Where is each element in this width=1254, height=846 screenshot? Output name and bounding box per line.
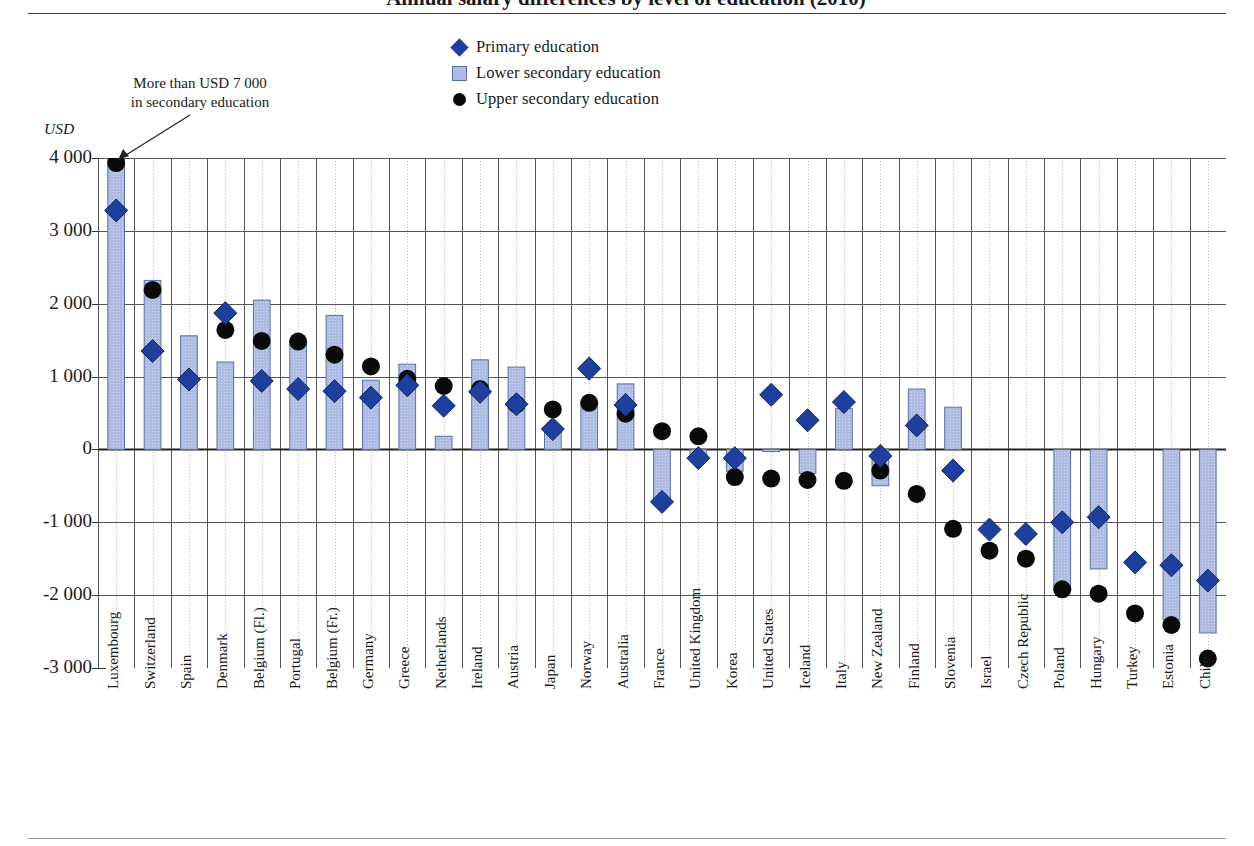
x-tick-label: Netherlands — [433, 617, 450, 689]
x-tick-label: France — [651, 648, 668, 689]
chart-legend: Primary education Lower secondary educat… — [448, 34, 661, 112]
y-tick-label: 1 000 — [49, 365, 92, 387]
marker-upper-secondary — [1017, 550, 1035, 568]
y-axis-ticks: 4 0003 0002 0001 0000-1 000-2 000-3 000 — [0, 158, 92, 678]
marker-upper-secondary — [144, 281, 162, 299]
bar-group — [144, 280, 161, 449]
marker-upper-secondary — [1053, 580, 1071, 598]
marker-upper-secondary — [1126, 604, 1144, 622]
x-tick-label: Israel — [978, 656, 995, 689]
bar-group — [217, 362, 234, 449]
plot-area — [98, 158, 1226, 668]
chart-title-clip: Annual salary differences by level of ed… — [28, 0, 1224, 14]
marker-primary — [796, 409, 819, 432]
marker-upper-secondary — [580, 394, 598, 412]
page-title: Annual salary differences by level of ed… — [28, 0, 1224, 11]
bar-group — [836, 409, 853, 450]
bar-lower-secondary — [799, 449, 816, 473]
x-tick-label: Norway — [578, 641, 595, 689]
bottom-divider — [28, 838, 1226, 839]
bar-lower-secondary — [836, 409, 853, 450]
legend-label-lower-secondary: Lower secondary education — [476, 63, 661, 83]
x-tick-label: Czech Republic — [1015, 594, 1032, 689]
marker-primary — [1014, 522, 1037, 545]
marker-upper-secondary — [435, 377, 453, 395]
x-tick-label: Portugal — [287, 638, 304, 689]
bar-lower-secondary — [945, 407, 962, 449]
marker-upper-secondary — [362, 357, 380, 375]
bar-lower-secondary — [181, 336, 198, 450]
marker-primary — [432, 394, 455, 417]
x-tick-label: United Kingdom — [687, 588, 704, 689]
marker-upper-secondary — [1162, 616, 1180, 634]
x-tick-label: Slovenia — [942, 637, 959, 690]
x-tick-label: Japan — [542, 655, 559, 689]
marker-upper-secondary — [799, 471, 817, 489]
marker-primary — [942, 459, 965, 482]
x-tick-label: Ireland — [469, 647, 486, 689]
marker-upper-secondary — [908, 485, 926, 503]
marker-upper-secondary — [726, 468, 744, 486]
circle-icon — [448, 93, 470, 106]
y-tick-label: -1 000 — [43, 510, 92, 532]
y-tick-label: 0 — [83, 437, 93, 459]
bar-lower-secondary — [435, 436, 452, 449]
bar-lower-secondary — [144, 280, 161, 449]
bar-group — [181, 336, 198, 450]
x-tick-label: Belgium (Fr.) — [324, 607, 341, 689]
marker-upper-secondary — [653, 422, 671, 440]
x-tick-label: Hungary — [1088, 637, 1105, 690]
legend-item-lower-secondary: Lower secondary education — [448, 60, 661, 86]
annotation-line-2: in secondary education — [100, 93, 300, 112]
bar-group — [799, 449, 816, 473]
bar-lower-secondary — [1199, 449, 1216, 633]
x-tick-label: Korea — [724, 652, 741, 689]
bar-group — [1163, 449, 1180, 620]
bar-lower-secondary — [763, 449, 780, 451]
x-tick-label: Spain — [178, 655, 195, 689]
square-icon — [448, 66, 470, 81]
legend-label-upper-secondary: Upper secondary education — [476, 89, 659, 109]
x-tick-label: Iceland — [797, 645, 814, 689]
x-tick-label: Chile — [1197, 657, 1214, 690]
y-tick-label: 2 000 — [49, 292, 92, 314]
x-tick-label: United States — [760, 609, 777, 689]
x-tick-label: Austria — [505, 645, 522, 689]
chart-root: Annual salary differences by level of ed… — [0, 0, 1254, 846]
marker-upper-secondary — [1090, 585, 1108, 603]
x-tick-label: Luxembourg — [105, 612, 122, 689]
marker-upper-secondary — [981, 542, 999, 560]
marker-upper-secondary — [762, 470, 780, 488]
marker-upper-secondary — [689, 427, 707, 445]
bar-group — [472, 360, 489, 450]
arrow-line — [118, 115, 190, 160]
marker-upper-secondary — [544, 400, 562, 418]
x-axis-labels: LuxembourgSwitzerlandSpainDenmarkBelgium… — [98, 672, 1228, 846]
bar-group — [945, 407, 962, 449]
legend-label-primary: Primary education — [476, 37, 599, 57]
marker-primary — [978, 518, 1001, 541]
bar-group — [1199, 449, 1216, 633]
x-tick-label: Germany — [360, 633, 377, 689]
bar-group — [435, 436, 452, 449]
plot-svg — [98, 158, 1226, 668]
x-tick-label: Estonia — [1160, 644, 1177, 689]
legend-item-primary: Primary education — [448, 34, 661, 60]
x-tick-label: Switzerland — [142, 617, 159, 689]
x-tick-label: Poland — [1051, 647, 1068, 689]
marker-primary — [1124, 551, 1147, 574]
x-tick-label: Turkey — [1124, 646, 1141, 689]
marker-upper-secondary — [326, 346, 344, 364]
title-divider — [28, 13, 1226, 14]
x-tick-label: Italy — [833, 662, 850, 690]
diamond-icon — [448, 41, 470, 54]
y-tick-label: 3 000 — [49, 219, 92, 241]
marker-primary — [214, 302, 237, 325]
chart-annotation: More than USD 7 000 in secondary educati… — [100, 74, 300, 112]
marker-upper-secondary — [253, 332, 271, 350]
y-tick-mark — [92, 668, 106, 669]
bar-lower-secondary — [472, 360, 489, 450]
x-tick-label: Australia — [615, 634, 632, 689]
x-tick-label: Denmark — [214, 633, 231, 689]
legend-item-upper-secondary: Upper secondary education — [448, 86, 661, 112]
